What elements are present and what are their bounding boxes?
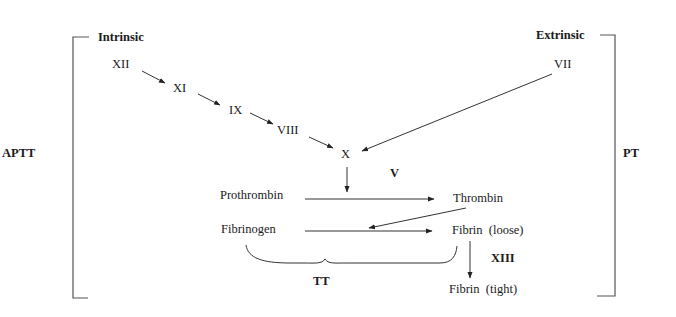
aptt-bracket <box>73 37 89 298</box>
factor-xiii: XIII <box>491 251 515 265</box>
factor-x: X <box>341 147 350 161</box>
intrinsic-pathway-label: Intrinsic <box>98 30 144 44</box>
extrinsic-pathway-label: Extrinsic <box>536 28 585 42</box>
fibrinogen-label: Fibrinogen <box>221 222 277 236</box>
prothrombin-label: Prothrombin <box>220 188 284 202</box>
tt-brace <box>246 245 457 263</box>
arrow-viii-to-x <box>309 137 333 148</box>
factor-v: V <box>390 166 399 180</box>
aptt-label: APTT <box>2 146 36 160</box>
coagulation-cascade-diagram: APTT PT Intrinsic Extrinsic XII XI IX VI… <box>0 0 676 317</box>
factor-ix: IX <box>229 103 242 117</box>
factor-xii: XII <box>112 57 129 71</box>
factor-xi: XI <box>173 81 186 95</box>
arrow-ix-to-viii <box>250 113 273 124</box>
factor-vii: VII <box>554 57 571 71</box>
pt-label: PT <box>623 146 640 160</box>
tt-label: TT <box>313 274 330 288</box>
arrow-xi-to-ix <box>198 94 220 105</box>
pt-bracket <box>597 35 615 296</box>
arrow-vii-to-x <box>362 74 552 151</box>
arrow-xii-to-xi <box>142 71 165 83</box>
fibrin-loose-label: Fibrin (loose) <box>452 223 524 237</box>
thrombin-label: Thrombin <box>453 191 504 205</box>
fibrin-tight-label: Fibrin (tight) <box>449 282 517 296</box>
factor-viii: VIII <box>277 123 299 137</box>
